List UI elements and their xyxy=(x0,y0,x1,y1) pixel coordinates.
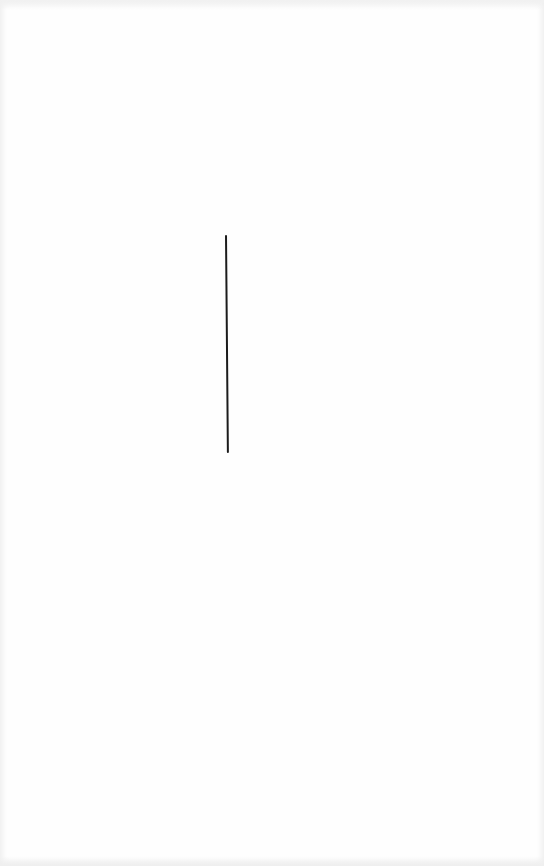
blank-page xyxy=(0,0,544,866)
page-bottom-edge-shading xyxy=(0,856,544,866)
vertical-line-mark xyxy=(225,235,229,453)
page-top-edge-shading xyxy=(0,0,544,10)
